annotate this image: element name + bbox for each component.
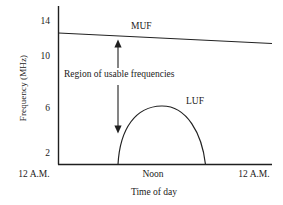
frequency-vs-time-chart: 14 10 6 2 Frequency (MHz) 12 A.M. Noon 1… [0,0,283,205]
y-axis-title-wrapper: Frequency (MHz) [12,23,30,153]
luf-series-label: LUF [186,97,204,107]
region-annotation-text: Region of usable frequencies [64,70,175,80]
muf-series-line [59,33,273,44]
region-arrow-up [114,40,121,69]
x-tick-label-midnight-end: 12 A.M. [228,170,280,180]
x-axis-title: Time of day [94,188,214,198]
region-arrow-down [114,85,121,134]
muf-series-label: MUF [131,22,152,32]
x-tick-label-midnight-start: 12 A.M. [8,170,60,180]
x-tick-label-noon: Noon [132,170,174,180]
y-axis-title: Frequency (MHz) [18,55,28,121]
luf-series-curve [118,106,206,165]
